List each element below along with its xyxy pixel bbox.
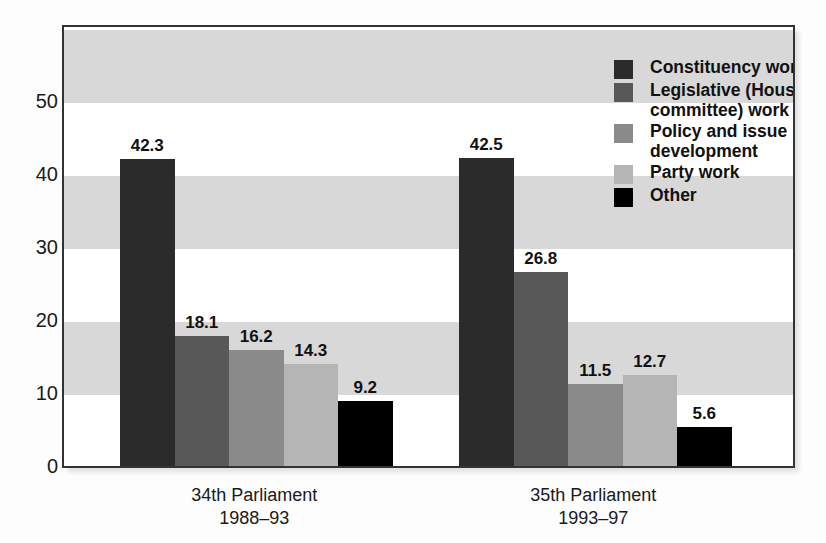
x-axis-group-name: 35th Parliament [530,484,656,507]
legend-item: Constituency work [614,58,795,79]
bar [229,350,284,468]
x-axis-group-years: 1988–93 [191,507,317,530]
x-axis-group-label: 34th Parliament1988–93 [191,484,317,529]
bar-value-label: 26.8 [524,250,557,267]
plot-area: 42.318.116.214.39.242.526.811.512.75.6 C… [62,25,795,468]
bar-value-label: 9.2 [353,379,377,396]
legend-item: Party work [614,163,795,184]
bar [677,427,732,468]
bar [459,158,514,468]
y-axis: 01020304050 [0,0,58,543]
legend: Constituency workLegislative (House/ com… [614,58,795,209]
legend-swatch-icon [614,60,633,79]
bar [175,336,230,468]
x-axis-group-years: 1993–97 [530,507,656,530]
legend-swatch-icon [614,165,633,184]
y-axis-tick-label: 10 [10,383,58,403]
bar [338,401,393,468]
y-axis-tick-label: 20 [10,310,58,330]
legend-item: Other [614,186,795,207]
bar-value-label: 16.2 [240,328,273,345]
legend-item-label: Party work [650,163,739,183]
legend-item-label: Policy and issue development [650,122,787,161]
chart-figure: 01020304050 42.318.116.214.39.242.526.81… [0,0,826,543]
bar-value-label: 14.3 [294,342,327,359]
y-axis-tick-label: 40 [10,164,58,184]
legend-item-label: Legislative (House/ committee) work [650,81,795,120]
y-axis-tick-label: 0 [10,456,58,476]
x-axis-group-label: 35th Parliament1993–97 [530,484,656,529]
legend-item: Legislative (House/ committee) work [614,81,795,120]
legend-swatch-icon [614,124,633,143]
y-axis-tick-label: 30 [10,237,58,257]
y-axis-tick-label: 50 [10,91,58,111]
bar [568,384,623,468]
bar-value-label: 42.5 [470,136,503,153]
legend-item-label: Constituency work [650,58,795,78]
bar-value-label: 12.7 [633,353,666,370]
legend-swatch-icon [614,188,633,207]
legend-item-label: Other [650,186,697,206]
x-axis-group-name: 34th Parliament [191,484,317,507]
bar-value-label: 18.1 [185,314,218,331]
bar-value-label: 5.6 [692,405,716,422]
bar [284,364,339,468]
legend-item: Policy and issue development [614,122,795,161]
bar-value-label: 11.5 [579,362,611,379]
bar [514,272,569,468]
bar [120,159,175,468]
legend-swatch-icon [614,83,633,102]
bar-value-label: 42.3 [131,137,164,154]
bar [623,375,678,468]
